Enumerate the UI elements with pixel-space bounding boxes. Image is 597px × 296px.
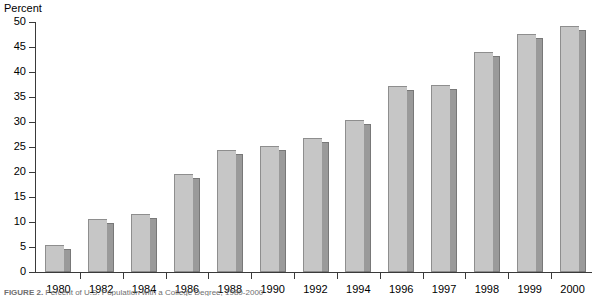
bar-face xyxy=(88,219,107,273)
y-tick-label: 20 xyxy=(14,165,26,177)
y-tick-mark xyxy=(29,222,36,223)
bar xyxy=(517,34,543,272)
x-tick-mark xyxy=(465,272,466,279)
bar-face xyxy=(474,52,493,272)
bar-side-shade xyxy=(150,218,157,273)
caption-text: Percent of U.S. Population with a Colleg… xyxy=(45,288,263,296)
y-tick-mark xyxy=(29,197,36,198)
bar xyxy=(88,219,114,273)
bar xyxy=(45,245,71,273)
y-tick-mark xyxy=(29,22,36,23)
bar-side-shade xyxy=(364,124,371,272)
y-tick-label: 0 xyxy=(20,265,26,277)
bar-side-shade xyxy=(407,90,414,272)
y-tick-label: 50 xyxy=(14,15,26,27)
x-tick-mark xyxy=(123,272,124,279)
y-tick-label: 5 xyxy=(20,240,26,252)
y-tick-label: 35 xyxy=(14,90,26,102)
y-tick-mark xyxy=(29,172,36,173)
bar xyxy=(174,174,200,272)
y-tick-label: 10 xyxy=(14,215,26,227)
bar-side-shade xyxy=(64,249,71,273)
bar-face xyxy=(217,150,236,272)
x-tick-mark xyxy=(508,272,509,279)
bar-side-shade xyxy=(236,154,243,272)
bar-side-shade xyxy=(107,223,114,273)
figure-caption: FIGURE 2. Percent of U.S. Population wit… xyxy=(4,288,564,296)
x-tick-mark xyxy=(251,272,252,279)
bar-side-shade xyxy=(579,30,586,273)
y-tick-label: 30 xyxy=(14,115,26,127)
y-tick-mark xyxy=(29,147,36,148)
y-tick-label: 45 xyxy=(14,40,26,52)
bar-face xyxy=(260,146,279,272)
y-tick-mark xyxy=(29,272,36,273)
x-tick-mark xyxy=(423,272,424,279)
x-tick-mark xyxy=(380,272,381,279)
y-tick-mark xyxy=(29,247,36,248)
bar xyxy=(131,214,157,273)
x-tick-mark xyxy=(208,272,209,279)
bar-face xyxy=(45,245,64,273)
bar-side-shade xyxy=(279,150,286,272)
y-tick-label: 15 xyxy=(14,190,26,202)
y-tick-mark xyxy=(29,72,36,73)
y-axis-label: Percent xyxy=(4,2,42,14)
bar xyxy=(303,138,329,272)
x-tick-mark xyxy=(166,272,167,279)
plot-area: 05101520253035404550 1980198219841986198… xyxy=(35,22,592,272)
bar-side-shade xyxy=(193,178,200,272)
bar-face xyxy=(517,34,536,272)
bar-face xyxy=(131,214,150,273)
bar xyxy=(388,86,414,272)
bar-face xyxy=(345,120,364,272)
bar xyxy=(431,85,457,272)
bar xyxy=(560,26,586,273)
y-tick-label: 25 xyxy=(14,140,26,152)
bar-side-shade xyxy=(493,56,500,272)
bar xyxy=(217,150,243,272)
y-tick-mark xyxy=(29,97,36,98)
bar-face xyxy=(431,85,450,272)
x-tick-mark xyxy=(80,272,81,279)
y-tick-mark xyxy=(29,122,36,123)
bar-face xyxy=(303,138,322,272)
x-tick-mark xyxy=(337,272,338,279)
y-tick-mark xyxy=(29,47,36,48)
y-tick-label: 40 xyxy=(14,65,26,77)
bar-face xyxy=(174,174,193,272)
bar-side-shade xyxy=(536,38,543,272)
bar-face xyxy=(560,26,579,273)
bar-side-shade xyxy=(322,142,329,272)
x-tick-mark xyxy=(551,272,552,279)
bar-side-shade xyxy=(450,89,457,272)
bar xyxy=(260,146,286,272)
bar xyxy=(474,52,500,272)
x-tick-mark xyxy=(294,272,295,279)
bar-face xyxy=(388,86,407,272)
bar xyxy=(345,120,371,272)
caption-prefix: FIGURE 2. xyxy=(4,288,43,296)
bar-chart-figure: Percent 05101520253035404550 19801982198… xyxy=(0,0,597,296)
